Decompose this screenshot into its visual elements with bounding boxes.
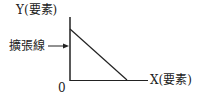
x-axis-label: X(要素) xyxy=(150,74,192,86)
line-label: 擴張線 xyxy=(9,40,45,52)
arrow-head-icon xyxy=(63,44,69,49)
y-axis-label: Y(要素) xyxy=(16,4,57,16)
origin-label: 0 xyxy=(58,82,66,94)
expansion-line xyxy=(70,29,127,80)
